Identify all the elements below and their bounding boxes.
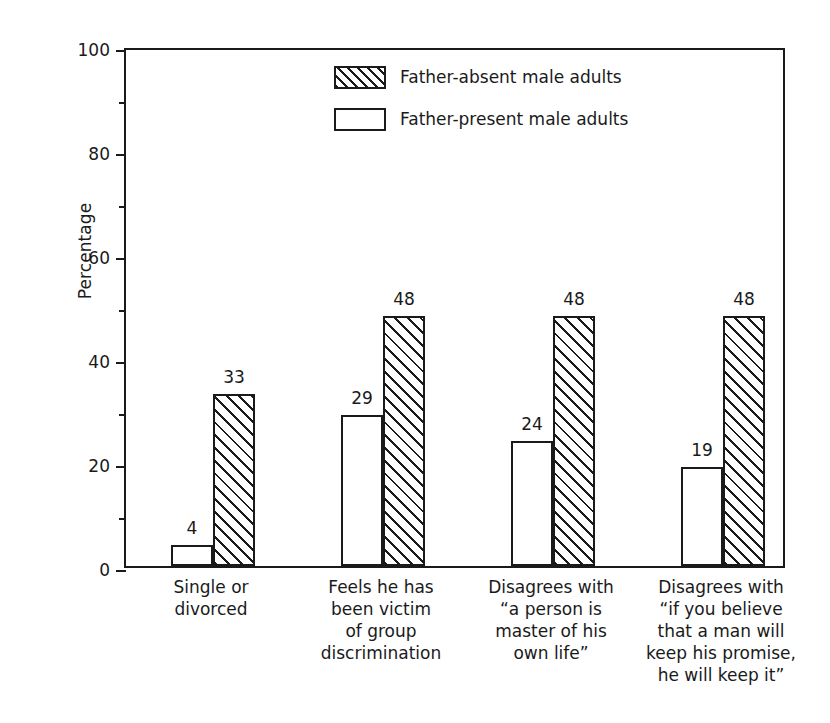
x-axis-category-labels: Single or divorcedFeels he has been vict… — [124, 576, 785, 716]
bar-hatched: 48 — [553, 316, 595, 566]
bar-white: 29 — [341, 415, 383, 566]
y-tick-mark — [116, 570, 126, 572]
y-tick-mark — [119, 206, 126, 208]
y-tick-mark — [119, 518, 126, 520]
y-tick-label: 80 — [88, 144, 110, 164]
bar-value-label: 19 — [691, 442, 713, 459]
y-tick-mark — [116, 466, 126, 468]
y-tick-mark — [116, 50, 126, 52]
bar-value-label: 24 — [521, 416, 543, 433]
y-tick-mark — [116, 362, 126, 364]
bar-hatched: 33 — [213, 394, 255, 566]
y-tick-label: 60 — [88, 248, 110, 268]
y-tick-mark — [119, 102, 126, 104]
bars-layer: 433294824481948 — [126, 50, 783, 566]
bar-value-label: 48 — [733, 291, 755, 308]
bar-white: 4 — [171, 545, 213, 566]
y-tick-mark — [116, 154, 126, 156]
y-tick-mark — [119, 310, 126, 312]
bar-white: 19 — [681, 467, 723, 566]
y-tick-label: 0 — [99, 560, 110, 580]
category-label: Single or divorced — [136, 576, 286, 620]
bar-value-label: 29 — [351, 390, 373, 407]
bar-value-label: 4 — [187, 520, 198, 537]
bar-value-label: 48 — [563, 291, 585, 308]
y-tick-mark — [119, 414, 126, 416]
category-label: Disagrees with “a person is master of hi… — [464, 576, 639, 664]
category-label: Feels he has been victim of group discri… — [294, 576, 469, 664]
y-tick-label: 100 — [78, 40, 110, 60]
plot-area: 020406080100 Father-absent male adultsFa… — [124, 48, 785, 568]
y-tick-label: 20 — [88, 456, 110, 476]
y-tick-label: 40 — [88, 352, 110, 372]
category-label: Disagrees with “if you believe that a ma… — [621, 576, 821, 686]
bar-hatched: 48 — [723, 316, 765, 566]
bar-value-label: 48 — [393, 291, 415, 308]
bar-white: 24 — [511, 441, 553, 566]
bar-value-label: 33 — [223, 369, 245, 386]
chart-figure: Percentage 020406080100 Father-absent ma… — [0, 0, 830, 723]
bar-hatched: 48 — [383, 316, 425, 566]
y-tick-mark — [116, 258, 126, 260]
